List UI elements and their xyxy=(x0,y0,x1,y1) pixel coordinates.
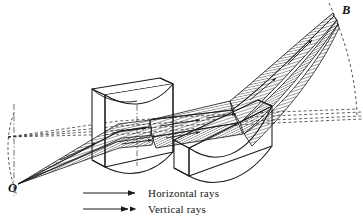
double-arrow-second-head-icon xyxy=(130,207,137,212)
legend-item-vertical: Vertical rays xyxy=(83,203,206,215)
legend-item-horizontal: Horizontal rays xyxy=(83,187,219,199)
point-label-O: O xyxy=(8,181,17,195)
legend: Horizontal rays Vertical rays xyxy=(83,187,219,215)
legend-label-horizontal: Horizontal rays xyxy=(148,187,219,199)
legend-label-vertical: Vertical rays xyxy=(148,203,206,215)
point-label-B: B xyxy=(341,3,350,17)
figure-root: O B Horizontal rays Vertical rays xyxy=(0,0,363,224)
figure-canvas: O B Horizontal rays Vertical rays xyxy=(0,0,363,224)
ray-bundle-right xyxy=(230,13,339,146)
ray-bundle-middle xyxy=(150,101,243,148)
